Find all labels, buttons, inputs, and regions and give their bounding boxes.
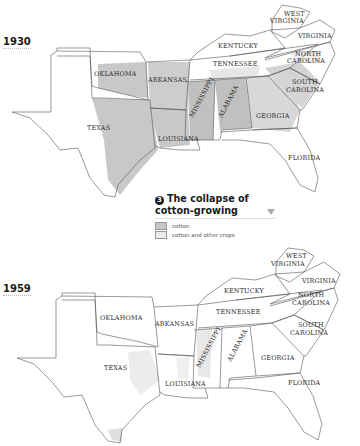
- label-ky-1959: KENTUCKY: [224, 287, 265, 295]
- border-ar-1959: [154, 305, 198, 356]
- label-sc-1-1959: SOUTH: [298, 321, 324, 329]
- cotton-region-la-1959: [176, 356, 190, 380]
- cotton-region-tx-1959: [128, 350, 160, 395]
- label-tn-1959: TENNESSEE: [216, 308, 261, 316]
- label-al-1959: ALABAMA: [225, 328, 249, 364]
- label-wv-2-1959: VIRGINIA: [270, 260, 305, 268]
- label-wv-1-1959: WEST: [286, 252, 307, 260]
- map-1959: WEST VIRGINIA VIRGINIA KENTUCKY NORTH CA…: [0, 0, 360, 446]
- label-fl-1959: FLORIDA: [288, 379, 321, 387]
- label-tx-1959: TEXAS: [104, 364, 127, 372]
- label-nc-1-1959: NORTH: [298, 291, 325, 299]
- label-la-1959: LOUISIANA: [165, 380, 206, 388]
- cotton-region-tx-south: [108, 428, 122, 442]
- label-sc-2-1959: CAROLINA: [290, 329, 328, 337]
- label-nc-2-1959: CAROLINA: [292, 299, 330, 307]
- label-ar-1959: ARKANSAS: [154, 320, 194, 328]
- label-va-1959: VIRGINIA: [301, 277, 336, 285]
- label-ga-1959: GEORGIA: [261, 354, 295, 362]
- label-ok-1959: OKLAHOMA: [100, 314, 143, 322]
